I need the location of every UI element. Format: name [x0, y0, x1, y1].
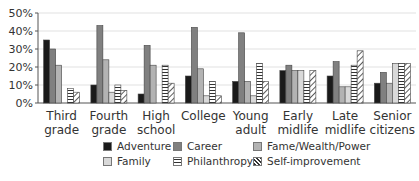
bar [185, 76, 191, 103]
bar [333, 62, 339, 103]
x-tick-label: adult [235, 123, 266, 137]
bar [398, 63, 404, 103]
x-tick-label: Senior [373, 109, 411, 123]
bar [197, 69, 203, 103]
legend-label: Philanthropy [187, 155, 253, 167]
bar [144, 45, 150, 103]
bar [97, 26, 103, 103]
adventure-swatch-icon [103, 142, 112, 151]
bar [162, 65, 168, 103]
bar [191, 27, 197, 103]
y-tick-label: 0% [16, 97, 33, 110]
x-tick-label: midlife [325, 123, 366, 137]
x-tick-label: citizens [370, 123, 416, 137]
family-swatch-icon [103, 157, 112, 166]
x-tick-label: High [142, 109, 170, 123]
x-tick-label: grade [91, 123, 126, 137]
legend-item-family: Family [103, 155, 173, 167]
bar [209, 81, 215, 103]
bar [203, 96, 209, 103]
career-swatch-icon [173, 142, 182, 151]
bar [374, 83, 380, 103]
legend-label: Fame/Wealth/Power [267, 140, 370, 152]
bar [327, 76, 333, 103]
bar [280, 71, 286, 103]
bar [68, 89, 74, 103]
legend-label: Adventure [117, 140, 171, 152]
x-tick-label: school [137, 123, 175, 137]
bar [357, 51, 363, 103]
bar [91, 85, 97, 103]
x-tick-label: Young [232, 109, 269, 123]
bar [339, 87, 345, 103]
bar [286, 65, 292, 103]
bar [239, 33, 245, 103]
bar [138, 94, 144, 103]
bar [103, 60, 109, 103]
bar [292, 71, 298, 103]
bar [298, 71, 304, 103]
legend-item-fame: Fame/Wealth/Power [253, 140, 363, 152]
y-tick-label: 50% [9, 7, 33, 20]
bar [386, 83, 392, 103]
bar [74, 92, 80, 103]
bar [56, 65, 62, 103]
bars [44, 26, 411, 103]
bar [257, 63, 263, 103]
bar-chart: 0%10%20%30%40%50% ThirdgradeFourthgradeH… [0, 0, 419, 181]
bar [310, 71, 316, 103]
bar [44, 40, 50, 103]
y-tick-label: 40% [9, 25, 33, 38]
bar [50, 49, 56, 103]
legend-label: Family [117, 155, 151, 167]
bar [263, 81, 269, 103]
bar [345, 87, 351, 103]
fame-swatch-icon [253, 142, 262, 151]
bar [304, 81, 310, 103]
bar [121, 90, 127, 103]
x-axis-labels: ThirdgradeFourthgradeHighschoolCollegeYo… [44, 109, 415, 137]
y-tick-label: 20% [9, 61, 33, 74]
bar [150, 65, 156, 103]
x-tick-label: College [181, 109, 226, 123]
bar [168, 83, 174, 103]
legend-item-adventure: Adventure [103, 140, 173, 152]
bar [109, 92, 115, 103]
y-tick-label: 30% [9, 43, 33, 56]
bar [115, 85, 121, 103]
chart-plot: 0%10%20%30%40%50% ThirdgradeFourthgradeH… [0, 0, 419, 140]
legend-item-career: Career [173, 140, 253, 152]
legend: Adventure Career Fame/Wealth/Power Famil… [103, 140, 363, 167]
legend-label: Self-improvement [267, 155, 360, 167]
x-tick-label: Fourth [90, 109, 129, 123]
bar [351, 65, 357, 103]
bar [380, 72, 386, 103]
x-tick-label: Late [332, 109, 358, 123]
bar [215, 96, 221, 103]
x-tick-label: midlife [277, 123, 318, 137]
philanthropy-swatch-icon [173, 157, 182, 166]
bar [233, 81, 239, 103]
legend-item-self-improvement: Self-improvement [253, 155, 363, 167]
bar [392, 63, 398, 103]
legend-item-philanthropy: Philanthropy [173, 155, 253, 167]
legend-label: Career [187, 140, 222, 152]
x-tick-label: Early [283, 109, 313, 123]
bar [245, 81, 251, 103]
x-tick-label: Third [45, 109, 77, 123]
bar [251, 96, 257, 103]
self-improvement-swatch-icon [253, 157, 262, 166]
y-tick-label: 10% [9, 79, 33, 92]
x-tick-label: grade [44, 123, 79, 137]
bar [404, 63, 410, 103]
